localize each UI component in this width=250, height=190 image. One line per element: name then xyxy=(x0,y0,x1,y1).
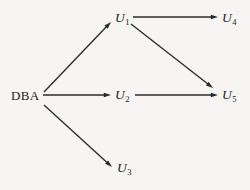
edge-u1-u5 xyxy=(131,24,213,88)
node-label-u1: U1 xyxy=(115,11,129,25)
edge-dba-u3 xyxy=(44,105,112,167)
node-subscript-text: 4 xyxy=(232,17,236,27)
node-base-text: U xyxy=(222,87,232,102)
node-subscript-text: 5 xyxy=(232,94,236,104)
edge-u2-u5 xyxy=(135,93,218,98)
node-subscript-text: 2 xyxy=(125,94,129,104)
node-base-text: DBA xyxy=(11,88,39,103)
arrowhead-icon xyxy=(211,93,218,98)
edges-group xyxy=(43,15,218,167)
edge-u1-u4 xyxy=(133,15,218,20)
diagram-canvas: DBAU1U2U3U4U5 xyxy=(0,0,250,190)
node-base-text: U xyxy=(115,10,125,25)
node-base-text: U xyxy=(117,160,127,175)
node-base-text: U xyxy=(222,10,232,25)
node-label-dba: DBA xyxy=(11,89,39,102)
node-label-u4: U4 xyxy=(222,11,236,25)
node-base-text: U xyxy=(115,87,125,102)
edge-line xyxy=(44,105,108,163)
node-subscript-text: 3 xyxy=(127,167,131,177)
edge-dba-u1 xyxy=(44,22,111,92)
node-subscript-text: 1 xyxy=(125,17,129,27)
edge-dba-u2 xyxy=(43,93,111,98)
node-label-u2: U2 xyxy=(115,88,129,102)
node-label-u3: U3 xyxy=(117,161,131,175)
edge-line xyxy=(44,26,107,92)
arrowhead-icon xyxy=(211,15,218,20)
node-label-u5: U5 xyxy=(222,88,236,102)
edge-line xyxy=(131,24,208,84)
arrowhead-icon xyxy=(104,93,111,98)
